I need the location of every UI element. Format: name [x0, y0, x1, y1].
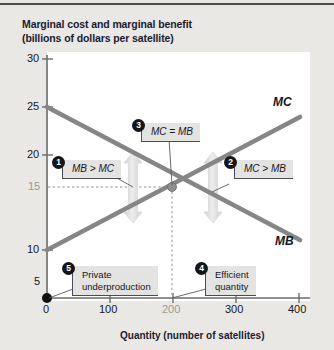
- mb-curve-label: MB: [275, 234, 294, 248]
- x-tick-label-400: 400: [288, 303, 306, 315]
- callout-badge-3: 3: [132, 119, 145, 132]
- callout-4-leader: [172, 289, 206, 298]
- y-tick-label-30: 30: [27, 52, 39, 64]
- x-tick-label-300: 300: [225, 303, 243, 315]
- callout-4-line-1: Efficient: [215, 269, 249, 280]
- mc-curve-label: MC: [273, 95, 292, 109]
- callout-efficient-quantity: Efficient quantity: [205, 266, 256, 296]
- y-tick-label-5: 5: [34, 275, 40, 287]
- callout-badge-4: 4: [195, 262, 208, 275]
- callout-mc-greater-mb: MC > MB: [234, 160, 293, 179]
- x-tick-label-100: 100: [99, 303, 117, 315]
- callout-badge-1: 1: [52, 156, 65, 169]
- callout-3-leader: [169, 139, 172, 185]
- callout-badge-5: 5: [62, 262, 75, 275]
- callout-5-line-2: underproduction: [82, 281, 151, 292]
- figure-container: Marginal cost and marginal benefit (bill…: [0, 0, 334, 350]
- callout-mb-greater-mc: MB > MC: [62, 160, 121, 179]
- callout-5-line-1: Private: [82, 269, 112, 280]
- y-tick-label-20: 20: [27, 148, 39, 160]
- origin-point: [42, 293, 52, 303]
- callout-badge-2: 2: [224, 156, 237, 169]
- callout-mc-equals-mb: MC = MB: [141, 123, 200, 142]
- x-axis-title: Quantity (number of satellites): [120, 330, 320, 341]
- y-tick-label-25: 25: [27, 100, 39, 112]
- y-tick-label-10: 10: [27, 243, 39, 255]
- callout-5-leader: [49, 289, 73, 298]
- y-tick-label-15: 15: [28, 180, 40, 192]
- x-tick-label-200: 200: [162, 303, 180, 315]
- callout-4-line-2: quantity: [215, 281, 248, 292]
- callout-private-underproduction: Private underproduction: [72, 266, 158, 296]
- x-tick-label-0: 0: [43, 303, 49, 315]
